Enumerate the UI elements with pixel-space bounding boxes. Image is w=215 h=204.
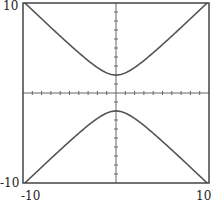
hyperbola-plot <box>0 0 215 204</box>
y-max-label: 10 <box>3 0 18 12</box>
x-max-label: 10 <box>196 190 211 202</box>
x-min-label: -10 <box>21 190 40 202</box>
y-min-label: -10 <box>0 177 19 189</box>
